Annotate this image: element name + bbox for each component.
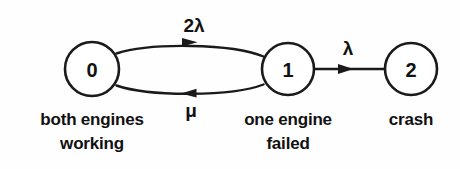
edge-1-to-2-rate-label: λ: [343, 38, 354, 59]
edge-0-to-1-path: [117, 46, 264, 57]
node-0[interactable]: 0 both engines working: [40, 42, 143, 153]
node-1-caption-line-2: failed: [266, 134, 309, 153]
edge-1-to-0-arrowhead-icon: [181, 89, 197, 98]
node-0-caption-line-2: working: [59, 134, 124, 153]
node-1-label: 1: [282, 59, 293, 81]
edge-1-to-0-rate-label: μ: [185, 100, 197, 121]
edge-0-to-1-rate-label: 2λ: [183, 15, 205, 36]
node-2-caption-line-1: crash: [389, 110, 433, 129]
edge-0-to-1: 2λ: [117, 15, 264, 57]
node-1[interactable]: 1 one engine failed: [244, 43, 332, 153]
node-2-label: 2: [405, 59, 416, 81]
state-transition-diagram: 2λ μ λ 0 both engines working 1 one engi…: [0, 0, 460, 169]
edge-1-to-2: λ: [315, 38, 386, 75]
node-2[interactable]: 2 crash: [385, 43, 437, 129]
edge-1-to-2-arrowhead-icon: [338, 64, 354, 74]
node-1-caption-line-1: one engine: [244, 110, 332, 129]
node-0-label: 0: [86, 59, 97, 81]
node-0-caption-line-1: both engines: [40, 110, 143, 129]
diagram-canvas: 2λ μ λ 0 both engines working 1 one engi…: [0, 0, 460, 169]
